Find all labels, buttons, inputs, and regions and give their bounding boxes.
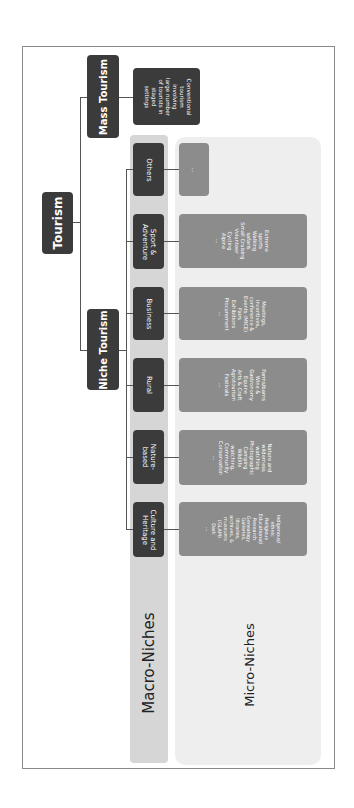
micro-list-culture-heritage: Indigenous/ethnicReligiousEducational/Re… xyxy=(205,514,282,544)
micro-list-business: Meetings,Incentives,conference &Events (… xyxy=(219,295,268,331)
micro-node-rural: Farms/barnsWine &GastronomyEquineArts & … xyxy=(179,358,307,412)
micro-list-sport-adventure: ExtremesportsWalkingsafarisSmall Cruisin… xyxy=(216,222,271,259)
macro-node-nature-based: Nature-based xyxy=(133,430,164,484)
tourism-root-node: Tourism xyxy=(42,192,73,254)
tourism-root-label: Tourism xyxy=(51,196,65,249)
macro-node-business: Business xyxy=(133,287,164,340)
macro-niches-label: Macro-Niches xyxy=(140,612,158,713)
connector-niche-bus xyxy=(126,169,127,530)
connector-macro-micro-sport xyxy=(164,241,179,242)
macro-label-nature-based: Nature-based xyxy=(141,444,157,470)
micro-node-culture-heritage: Indigenous/ethnicReligiousEducational/Re… xyxy=(179,502,307,556)
connector-macro-micro-nature xyxy=(164,457,179,458)
connector-to-sport xyxy=(126,241,133,242)
connector-niche-stub xyxy=(119,350,126,351)
connector-to-nature xyxy=(126,457,133,458)
mass-tourism-node: Mass Tourism xyxy=(87,55,119,138)
micro-node-others: ... xyxy=(179,143,209,196)
connector-macro-micro-others xyxy=(164,169,179,170)
connector-root-bus xyxy=(80,97,81,351)
mass-tourism-label: Mass Tourism xyxy=(98,58,109,134)
niche-tourism-node: Niche Tourism xyxy=(87,309,119,390)
micro-list-nature-based: Nature andwildernesswatchingPhotographic… xyxy=(213,440,274,474)
connector-to-culture xyxy=(126,529,133,530)
micro-niches-label: Micro-Niches xyxy=(242,623,257,706)
macro-label-others: Others xyxy=(145,158,153,182)
macro-niches-label-area: Macro-Niches xyxy=(130,565,168,760)
mass-tourism-description-node: Conventional tourism involving large num… xyxy=(133,68,200,125)
micro-node-sport-adventure: ExtremesportsWalkingsafarisSmall Cruisin… xyxy=(179,214,307,268)
niche-tourism-label: Niche Tourism xyxy=(98,310,109,389)
macro-node-sport-adventure: Sport &Adventure xyxy=(133,214,164,269)
macro-node-rural: Rural xyxy=(133,358,164,412)
mass-tourism-description: Conventional tourism involving large num… xyxy=(142,78,191,116)
micro-list-rural: Farms/barnsWine &GastronomyEquineArts & … xyxy=(219,369,268,401)
micro-node-business: Meetings,Incentives,conference &Events (… xyxy=(179,287,307,340)
macro-label-sport-adventure: Sport &Adventure xyxy=(141,223,157,259)
macro-label-culture-heritage: Culture andHeritage xyxy=(141,509,157,550)
connector-macro-micro-business xyxy=(164,313,179,314)
connector-to-others xyxy=(126,169,133,170)
macro-node-others: Others xyxy=(133,143,164,196)
connector-to-rural xyxy=(126,385,133,386)
connector-macro-micro-rural xyxy=(164,385,179,386)
connector-macro-micro-culture xyxy=(164,529,179,530)
micro-node-nature-based: Nature andwildernesswatchingPhotographic… xyxy=(179,430,307,485)
macro-node-culture-heritage: Culture andHeritage xyxy=(133,502,164,557)
micro-niches-label-area: Micro-Niches xyxy=(230,570,268,760)
connector-to-business xyxy=(126,313,133,314)
micro-list-others: ... xyxy=(191,167,197,172)
connector-mass-desc xyxy=(119,97,133,98)
macro-label-rural: Rural xyxy=(145,376,153,394)
macro-label-business: Business xyxy=(145,298,153,329)
